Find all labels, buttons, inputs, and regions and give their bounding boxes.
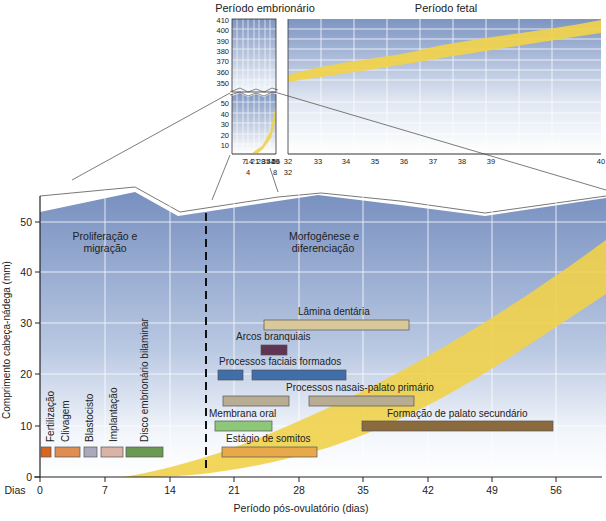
bar-arcos-branquiais: [261, 345, 287, 355]
svg-text:Processos faciais formados: Processos faciais formados: [219, 356, 341, 367]
bar-clivagem: [55, 447, 80, 457]
bar-somitos: [222, 447, 317, 457]
fetal-x-axis: 32 33 34 35 36 37 38 39 40 32: [284, 157, 605, 177]
svg-text:410: 410: [216, 16, 229, 25]
svg-text:Formação de palato secundário: Formação de palato secundário: [387, 408, 528, 419]
svg-text:39: 39: [487, 157, 495, 166]
svg-text:35: 35: [357, 484, 369, 496]
svg-text:370: 370: [216, 57, 229, 66]
svg-text:360: 360: [216, 68, 229, 77]
svg-text:40: 40: [20, 266, 32, 278]
svg-text:56: 56: [272, 157, 280, 166]
svg-text:0: 0: [37, 484, 43, 496]
bar-fertilizacao: [41, 447, 51, 457]
svg-text:42: 42: [422, 484, 434, 496]
embryonic-y-axis-upper: 410 400 390 380 370 360 350: [216, 16, 229, 88]
svg-text:Disco embrionário bilaminar: Disco embrionário bilaminar: [139, 317, 150, 442]
region-label-morphogenesis-1: Morfogênese e: [289, 230, 359, 242]
svg-text:40: 40: [597, 157, 605, 166]
region-label-proliferation-1: Proliferação e: [73, 230, 138, 242]
crl-chart-figure: Período embrionário 410: [0, 0, 606, 521]
bar-faciais-1: [218, 370, 243, 380]
bar-nasais-1: [223, 396, 289, 406]
bar-disco-bilaminar: [126, 447, 163, 457]
svg-text:21: 21: [228, 484, 240, 496]
svg-text:32: 32: [284, 157, 292, 166]
bar-blastocisto: [84, 447, 97, 457]
svg-text:50: 50: [20, 216, 32, 228]
svg-text:Implantação: Implantação: [108, 387, 119, 442]
svg-text:34: 34: [342, 157, 350, 166]
embryonic-x-axis: 7 14 21 28 35 42 49 56 4 8: [242, 157, 280, 177]
svg-text:Dias: Dias: [4, 484, 25, 496]
svg-text:32: 32: [284, 168, 292, 177]
svg-text:20: 20: [221, 131, 229, 140]
bar-implantacao: [101, 447, 123, 457]
bar-nasais-2: [309, 396, 414, 406]
svg-text:Estágio de somitos: Estágio de somitos: [226, 433, 311, 444]
svg-text:Processos nasais-palato primár: Processos nasais-palato primário: [286, 382, 434, 393]
svg-text:400: 400: [216, 26, 229, 35]
main-x-axis-labels: Dias 0 7 14 21 28 35 42 49 56: [4, 484, 562, 496]
bar-palato-secundario: [362, 421, 553, 431]
svg-text:0: 0: [26, 471, 32, 483]
svg-text:36: 36: [400, 157, 408, 166]
svg-text:40: 40: [221, 110, 229, 119]
svg-text:Blastocisto: Blastocisto: [84, 393, 95, 442]
svg-text:Membrana oral: Membrana oral: [209, 408, 276, 419]
svg-text:35: 35: [371, 157, 379, 166]
bar-faciais-2: [252, 370, 346, 380]
svg-text:38: 38: [458, 157, 466, 166]
main-chart: Proliferação e migração Morfogênese e di…: [1, 187, 606, 514]
svg-text:30: 30: [221, 120, 229, 129]
svg-text:Arcos branquiais: Arcos branquiais: [236, 331, 310, 342]
svg-text:8: 8: [273, 168, 277, 177]
svg-text:20: 20: [20, 368, 32, 380]
region-label-morphogenesis-2: diferenciação: [292, 242, 355, 254]
svg-text:390: 390: [216, 37, 229, 46]
svg-text:4: 4: [246, 168, 250, 177]
svg-text:37: 37: [429, 157, 437, 166]
region-label-proliferation-2: migração: [83, 242, 126, 254]
svg-text:Lâmina dentária: Lâmina dentária: [298, 306, 370, 317]
svg-text:30: 30: [20, 317, 32, 329]
svg-text:Fertilização: Fertilização: [45, 390, 56, 442]
main-y-axis-labels: 0 10 20 30 40 50: [20, 216, 32, 483]
main-y-axis-title: Comprimento cabeça-nádega (mm): [1, 261, 12, 419]
svg-text:28: 28: [293, 484, 305, 496]
main-x-axis-title: Período pós-ovulatório (dias): [234, 502, 369, 514]
svg-text:14: 14: [164, 484, 176, 496]
svg-text:50: 50: [221, 99, 229, 108]
fetal-inset: Período fetal 32 33 34 35 36 37 38 39 40: [284, 2, 605, 177]
svg-text:10: 10: [20, 420, 32, 432]
svg-text:7: 7: [102, 484, 108, 496]
fetal-title: Período fetal: [415, 2, 477, 14]
embryonic-title: Período embrionário: [215, 2, 315, 14]
svg-text:Clivagem: Clivagem: [60, 400, 71, 442]
svg-text:350: 350: [216, 79, 229, 88]
svg-text:56: 56: [550, 484, 562, 496]
bar-membrana-oral: [215, 421, 272, 431]
svg-text:33: 33: [314, 157, 322, 166]
svg-text:380: 380: [216, 47, 229, 56]
svg-text:10: 10: [221, 141, 229, 150]
embryonic-y-axis-lower: 50 40 30 20 10: [221, 99, 229, 150]
bar-lamina-dentaria: [264, 320, 409, 330]
svg-text:49: 49: [486, 484, 498, 496]
